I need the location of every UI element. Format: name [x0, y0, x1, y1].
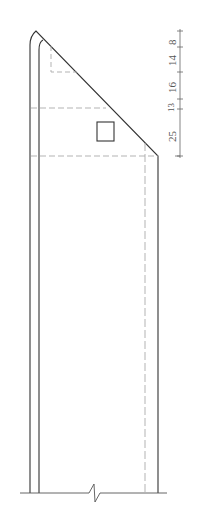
dim-label-25: 25 — [167, 131, 178, 142]
dim-label-16: 16 — [167, 82, 178, 93]
dim-label-14: 14 — [167, 55, 178, 66]
drawing-canvas — [0, 0, 201, 530]
dim-label-8: 8 — [167, 40, 178, 46]
opening-square — [97, 122, 114, 141]
dim-label-13: 13 — [167, 103, 176, 112]
outer-wall-outline — [30, 31, 158, 493]
